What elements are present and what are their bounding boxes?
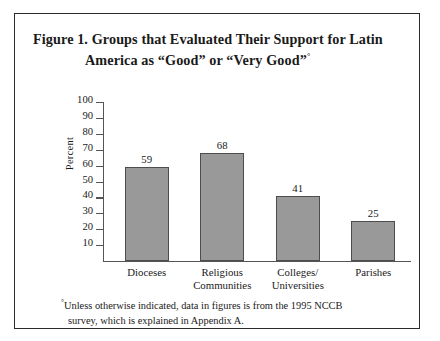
y-axis-tick: 90	[96, 118, 104, 119]
figure-panel: Figure 1. Groups that Evaluated Their Su…	[14, 13, 420, 329]
bar: 68	[200, 153, 244, 261]
category-label-line: Dioceses	[109, 266, 185, 279]
y-axis-tick: 50	[96, 182, 104, 183]
y-axis-tick-label: 60	[82, 158, 93, 169]
x-axis-category-label: Colleges/Universities	[260, 266, 336, 293]
category-label-line: Colleges/	[260, 266, 336, 279]
bar-value-label: 41	[292, 182, 303, 194]
bar-value-label: 25	[368, 207, 379, 219]
y-axis-tick-label: 40	[82, 189, 93, 200]
figure-title-line-2: America as “Good” or “Very Good”°	[33, 50, 405, 71]
bar-value-label: 59	[141, 153, 152, 165]
chart-plot-area: Percent 102030405060708090100 59684125 D…	[89, 90, 411, 262]
y-axis-tick: 60	[96, 166, 104, 167]
x-axis-line	[103, 261, 411, 262]
y-axis-tick-label: 70	[82, 142, 93, 153]
footnote-line-2: survey, which is explained in Appendix A…	[61, 314, 413, 329]
category-label-line: Universities	[260, 279, 336, 292]
figure-title: Figure 1. Groups that Evaluated Their Su…	[33, 29, 405, 70]
figure-title-line-1: Figure 1. Groups that Evaluated Their Su…	[33, 31, 383, 47]
bar-value-label: 68	[217, 139, 228, 151]
y-axis-tick-label: 90	[82, 110, 93, 121]
category-label-line: Parishes	[336, 266, 412, 279]
bar: 25	[351, 221, 395, 261]
y-axis-tick: 80	[96, 134, 104, 135]
y-axis-tick: 20	[96, 229, 104, 230]
y-axis-tick-label: 10	[82, 237, 93, 248]
y-axis-tick: 100	[96, 102, 104, 103]
y-axis-tick-label: 20	[82, 221, 93, 232]
y-axis-tick-label: 80	[82, 126, 93, 137]
bar: 41	[276, 196, 320, 261]
category-label-line: Religious	[185, 266, 261, 279]
x-axis-category-label: ReligiousCommunities	[185, 266, 261, 293]
y-axis-tick: 40	[96, 197, 104, 198]
y-axis-tick: 10	[96, 245, 104, 246]
category-label-line: Communities	[185, 279, 261, 292]
title-footnote-marker: °	[307, 52, 310, 61]
bar: 59	[125, 167, 169, 261]
y-axis-tick: 30	[96, 213, 104, 214]
x-axis-category-label: Dioceses	[109, 266, 185, 279]
y-axis-tick-label: 100	[77, 94, 93, 105]
figure-footnote: °Unless otherwise indicated, data in fig…	[61, 298, 413, 329]
y-axis-tick: 70	[96, 150, 104, 151]
y-axis-title: Percent	[64, 137, 75, 170]
x-axis-category-label: Parishes	[336, 266, 412, 279]
y-axis-tick-label: 50	[82, 174, 93, 185]
footnote-line-1: Unless otherwise indicated, data in figu…	[64, 300, 342, 311]
y-axis-tick-label: 30	[82, 205, 93, 216]
